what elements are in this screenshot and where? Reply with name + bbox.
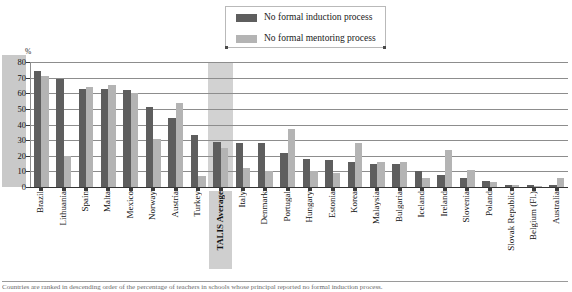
bar [191,135,198,187]
bar [221,148,228,187]
bars-container [30,62,568,187]
bar-group [523,62,545,187]
x-axis-category-label: Iceland [417,191,426,217]
x-axis-category-label: Slovenia [462,191,471,223]
x-axis-category-label: Korea [350,191,359,213]
bar-group [120,62,142,187]
x-axis-category-label: Italy [238,191,247,208]
bar [333,173,340,187]
legend-item-induction: No formal induction process [226,7,385,28]
bar-group [546,62,568,187]
x-axis-category-label: Denmark [260,191,269,225]
x-axis-category-label: Malta [103,191,112,212]
y-axis-tick-label: 80 [8,57,26,67]
bar [392,164,399,187]
bar-chart: No formal induction process No formal me… [0,0,572,292]
x-axis-category-label: Bulgaria [395,191,404,222]
bar [176,103,183,187]
bar [79,89,86,187]
x-axis-category-label: Slovak Republic [507,191,516,251]
x-axis-category-label: Mexico [126,191,135,219]
x-axis-category-label: Norway [148,191,157,220]
bar [198,176,205,187]
bar [437,175,444,188]
bar-group [232,62,254,187]
bar [422,178,429,187]
legend-bracket-left-tick [225,46,228,49]
bar-group [366,62,388,187]
y-axis-tick-label: 40 [8,120,26,130]
bar-group [97,62,119,187]
bar-group [187,62,209,187]
footer-divider [2,281,568,282]
bar-group [75,62,97,187]
bar [64,156,71,187]
bar [460,178,467,187]
x-axis-category-label: Belgium (Fl.) [529,191,538,240]
chart-legend: No formal induction process No formal me… [225,6,386,48]
chart-footnote: Countries are ranked in descending order… [2,283,568,291]
x-axis-category-label: Malaysia [372,191,381,224]
y-axis-tick-label: 70 [8,73,26,83]
bar-group [142,62,164,187]
bar [377,162,384,187]
bar [557,178,564,187]
x-axis-labels: BrazilLithuaniaSpainMaltaMexicoNorwayAus… [30,191,568,271]
legend-swatch-light-icon [236,35,257,43]
bar [355,143,362,187]
bar [123,90,130,187]
legend-swatch-dark-icon [236,14,257,22]
bar-group [52,62,74,187]
bar [131,93,138,187]
bar-group [344,62,366,187]
y-axis-tick-label: 0 [8,182,26,192]
bar [280,153,287,187]
x-axis-category-label: Hungary [305,191,314,223]
y-axis-labels: 01020304050607080 [2,62,26,187]
bar [34,71,41,187]
bar [86,87,93,187]
legend-label-mentoring: No formal mentoring process [264,34,376,44]
bar [243,168,250,187]
bar-group [254,62,276,187]
bar [467,170,474,187]
bar [310,171,317,187]
y-axis-tick-label: 60 [8,88,26,98]
y-axis-unit-label: % [25,47,31,56]
y-axis-tick-label: 50 [8,104,26,114]
legend-label-induction: No formal induction process [264,13,372,23]
x-axis-category-label: Portugal [283,191,292,222]
bar-group [321,62,343,187]
bar [400,162,407,187]
bar [370,164,377,187]
bar-group [456,62,478,187]
y-axis-tick-label: 10 [8,166,26,176]
bar [325,160,332,187]
bar [288,129,295,187]
bar-group [389,62,411,187]
bar-group [277,62,299,187]
bar [445,150,452,188]
bar [56,79,63,187]
x-axis-category-label: Australia [552,191,561,224]
x-axis-category-label: TALIS Average [216,191,225,250]
bar-group [209,62,231,187]
bar [146,107,153,187]
x-axis-category-label: Estonia [328,191,337,218]
bar-group [434,62,456,187]
bar [258,143,265,187]
bar-group [501,62,523,187]
bar [236,143,243,187]
legend-item-mentoring: No formal mentoring process [226,28,385,49]
bar [348,162,355,187]
bar-group [299,62,321,187]
bar [265,171,272,187]
bar [415,171,422,187]
x-axis-category-label: Austria [171,191,180,218]
legend-bracket-right-tick [383,46,386,49]
x-axis-category-label: Turkey [193,191,202,217]
bar-group [411,62,433,187]
y-axis-tick-label: 30 [8,135,26,145]
bar-group [478,62,500,187]
bar-group [30,62,52,187]
